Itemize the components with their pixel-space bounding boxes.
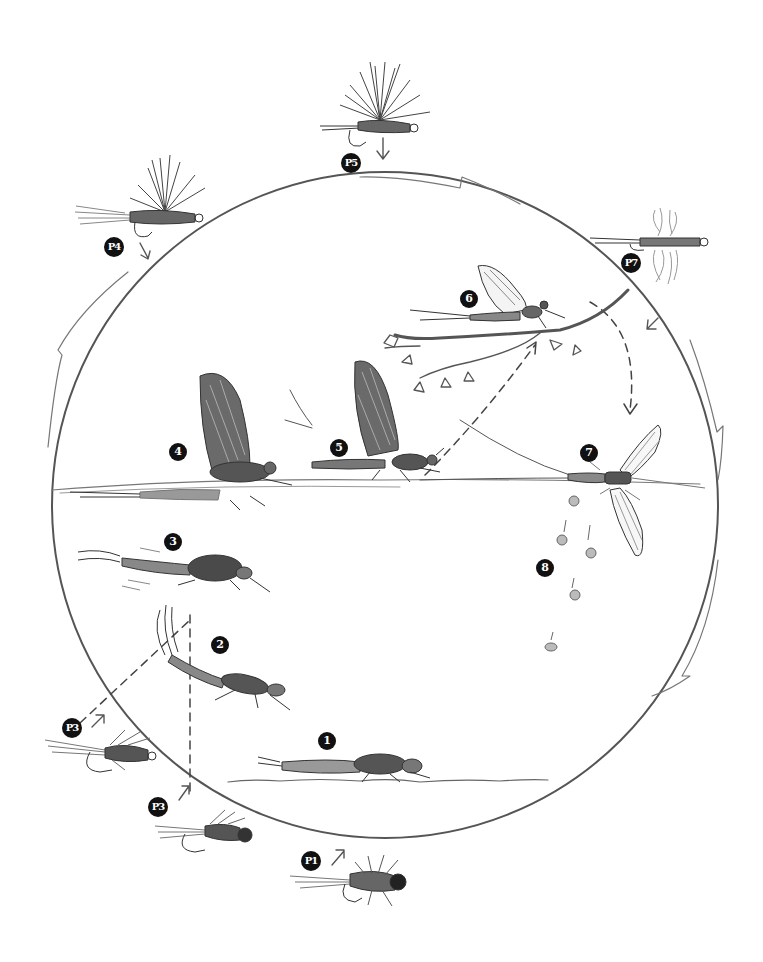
- stage-badge-7: 7: [580, 444, 598, 462]
- stage-badge-2: 2: [211, 636, 229, 654]
- stage-1-nymph: [258, 754, 430, 782]
- stage-3-nymph: [78, 548, 270, 592]
- stage-2-nymph: [157, 605, 290, 710]
- stage-badge-6: 6: [460, 290, 478, 308]
- stage-5-dun: [312, 361, 444, 482]
- pattern-p5-dry-fly: [320, 62, 430, 146]
- diagram-drawing: [0, 0, 763, 962]
- pattern-badge-p4: P4: [104, 237, 124, 257]
- stage-badge-1: 1: [318, 732, 336, 750]
- pattern-badge-p7: P7: [621, 253, 641, 273]
- stream-bottom-line: [228, 780, 548, 783]
- pattern-p7-spinner: [590, 208, 708, 284]
- stage-badge-5: 5: [330, 439, 348, 457]
- pattern-p3-emerger: [155, 810, 252, 852]
- pattern-p3-soft-hackle: [45, 730, 156, 772]
- pattern-badge-p1: P1: [301, 851, 321, 871]
- pattern-p4-dry-fly: [75, 155, 205, 237]
- stage-4-emerger: [70, 373, 292, 510]
- pattern-badge-p3-lower: P3: [148, 797, 168, 817]
- stage-badge-3: 3: [164, 533, 182, 551]
- pattern-badge-p3-left: P3: [62, 718, 82, 738]
- pattern-badge-p5: P5: [341, 153, 361, 173]
- stage-badge-4: 4: [169, 443, 187, 461]
- stage-badge-8: 8: [536, 559, 554, 577]
- stage-8-eggs: [545, 496, 596, 651]
- mayfly-life-cycle-diagram: 1 2 3 4 5 6 7 8 P1 P3 P3 P4 P5 P7: [0, 0, 763, 962]
- stage-6-spinner: [410, 265, 565, 328]
